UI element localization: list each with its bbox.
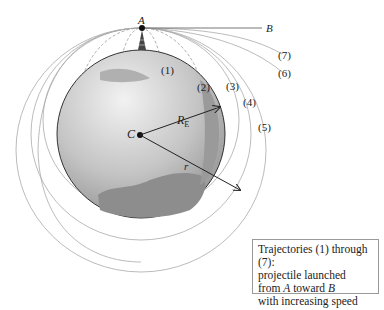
caption-box: Trajectories (1) through (7): projectile… — [252, 239, 379, 294]
point-a-label: A — [138, 14, 145, 26]
trajectory-2-label: (2) — [197, 81, 210, 93]
orbit-radius-label: r — [184, 160, 188, 172]
point-c-label: C — [127, 127, 135, 142]
trajectory-4-label: (4) — [243, 96, 256, 108]
trajectory-1-label: (1) — [161, 64, 174, 76]
launch-tower-icon — [138, 25, 146, 50]
trajectory-6-label: (6) — [278, 67, 291, 79]
point-b-label: B — [266, 22, 273, 34]
trajectory-5-label: (5) — [258, 121, 271, 133]
trajectory-7-label: (7) — [278, 49, 291, 61]
trajectory-7-path — [142, 28, 282, 54]
earth-radius-label: RE — [177, 113, 189, 129]
trajectory-3-label: (3) — [226, 80, 239, 92]
